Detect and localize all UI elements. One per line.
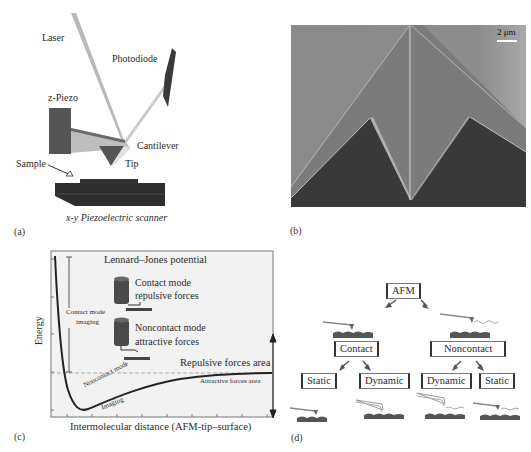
contact-dynamic-illustration xyxy=(356,400,404,419)
contact-illustration xyxy=(323,322,373,338)
noncontact-static-illustration xyxy=(473,403,520,420)
afm-node: AFM xyxy=(386,283,421,299)
contact-static-illustration xyxy=(290,408,327,422)
noncontact-dynamic-node: Dynamic xyxy=(421,373,472,389)
noncontact-illustration xyxy=(440,314,498,338)
contact-static-node: Static xyxy=(301,373,337,389)
noncontact-dynamic-illustration xyxy=(417,393,465,419)
panel-d-letter: (d) xyxy=(291,432,303,443)
noncontact-static-node: Static xyxy=(479,373,515,389)
contact-dynamic-node: Dynamic xyxy=(359,373,410,389)
noncontact-node: Noncontact xyxy=(430,341,506,357)
contact-node: Contact xyxy=(334,341,379,357)
